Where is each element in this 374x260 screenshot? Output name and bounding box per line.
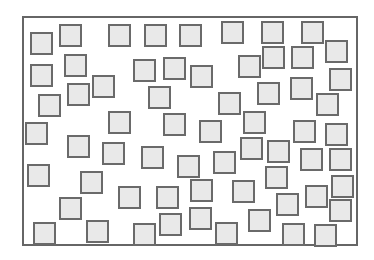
square-shape bbox=[325, 123, 348, 146]
square-shape bbox=[177, 155, 200, 178]
square-shape bbox=[80, 171, 103, 194]
square-shape bbox=[265, 166, 288, 189]
square-shape bbox=[108, 111, 131, 134]
square-shape bbox=[300, 148, 323, 171]
square-shape bbox=[262, 46, 285, 69]
square-shape bbox=[331, 175, 354, 198]
square-shape bbox=[163, 57, 186, 80]
square-shape bbox=[282, 223, 305, 246]
square-shape bbox=[38, 94, 61, 117]
square-shape bbox=[108, 24, 131, 47]
square-shape bbox=[30, 32, 53, 55]
square-shape bbox=[276, 193, 299, 216]
square-shape bbox=[325, 40, 348, 63]
square-shape bbox=[329, 199, 352, 222]
square-shape bbox=[148, 86, 171, 109]
square-shape bbox=[213, 151, 236, 174]
square-shape bbox=[59, 24, 82, 47]
square-shape bbox=[291, 46, 314, 69]
square-shape bbox=[218, 92, 241, 115]
square-shape bbox=[215, 222, 238, 245]
square-shape bbox=[199, 120, 222, 143]
square-shape bbox=[159, 213, 182, 236]
square-shape bbox=[144, 24, 167, 47]
square-shape bbox=[59, 197, 82, 220]
square-shape bbox=[27, 164, 50, 187]
square-shape bbox=[257, 82, 280, 105]
square-shape bbox=[232, 180, 255, 203]
square-shape bbox=[102, 142, 125, 165]
square-shape bbox=[67, 83, 90, 106]
square-shape bbox=[267, 140, 290, 163]
square-shape bbox=[163, 113, 186, 136]
square-shape bbox=[329, 68, 352, 91]
square-shape bbox=[156, 186, 179, 209]
square-shape bbox=[240, 137, 263, 160]
square-shape bbox=[316, 93, 339, 116]
square-shape bbox=[118, 186, 141, 209]
square-shape bbox=[86, 220, 109, 243]
square-shape bbox=[293, 120, 316, 143]
square-shape bbox=[92, 75, 115, 98]
square-shape bbox=[248, 209, 271, 232]
square-shape bbox=[64, 54, 87, 77]
square-shape bbox=[190, 179, 213, 202]
square-shape bbox=[141, 146, 164, 169]
square-shape bbox=[179, 24, 202, 47]
square-shape bbox=[25, 122, 48, 145]
square-shape bbox=[290, 77, 313, 100]
square-shape bbox=[30, 64, 53, 87]
square-shape bbox=[314, 224, 337, 247]
square-shape bbox=[190, 65, 213, 88]
square-shape bbox=[301, 21, 324, 44]
square-shape bbox=[189, 207, 212, 230]
square-shape bbox=[243, 111, 266, 134]
square-shape bbox=[221, 21, 244, 44]
square-shape bbox=[329, 148, 352, 171]
square-shape bbox=[133, 223, 156, 246]
square-shape bbox=[133, 59, 156, 82]
square-shape bbox=[261, 21, 284, 44]
square-shape bbox=[238, 55, 261, 78]
square-shape bbox=[67, 135, 90, 158]
square-shape bbox=[33, 222, 56, 245]
square-shape bbox=[305, 185, 328, 208]
